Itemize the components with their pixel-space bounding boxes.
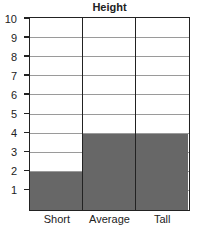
plot-area xyxy=(29,17,190,211)
gridline xyxy=(30,37,189,38)
x-tick-label-short: Short xyxy=(31,213,84,226)
gridline xyxy=(30,94,189,95)
bar-short xyxy=(30,172,83,210)
y-tick-label: 3 xyxy=(0,146,17,158)
y-tick-label: 6 xyxy=(0,89,17,101)
y-tick-mark xyxy=(24,113,30,115)
y-tick-label: 8 xyxy=(0,51,17,63)
x-tick-label-tall: Tall xyxy=(136,213,189,226)
y-tick-mark xyxy=(24,17,30,19)
gridline xyxy=(30,75,189,76)
y-tick-label: 7 xyxy=(0,70,17,82)
chart-title: Height xyxy=(29,0,190,14)
column-divider xyxy=(82,18,84,210)
x-tick-label-average: Average xyxy=(83,213,136,226)
y-tick-mark xyxy=(24,93,30,95)
y-tick-mark xyxy=(24,132,30,134)
y-tick-mark xyxy=(24,55,30,57)
gridline xyxy=(30,56,189,57)
y-tick-label: 2 xyxy=(0,165,17,177)
bar-tall xyxy=(135,134,188,210)
y-tick-mark xyxy=(24,74,30,76)
y-tick-label: 4 xyxy=(0,127,17,139)
y-tick-label: 1 xyxy=(0,184,17,196)
column-divider xyxy=(135,18,137,210)
y-tick-mark xyxy=(24,36,30,38)
y-tick-label: 9 xyxy=(0,32,17,44)
y-tick-label: 10 xyxy=(0,13,17,25)
y-tick-label: 5 xyxy=(0,108,17,120)
bar-average xyxy=(83,134,136,210)
gridline xyxy=(30,114,189,115)
y-tick-mark xyxy=(24,151,30,153)
